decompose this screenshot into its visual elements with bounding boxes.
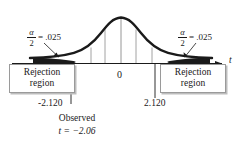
rejection-region-right-line1: Rejection bbox=[161, 67, 225, 78]
left-alpha-numerator: α bbox=[28, 28, 34, 37]
left-alpha-denominator: 2 bbox=[28, 39, 34, 48]
t-axis-label: t bbox=[229, 56, 232, 66]
lower-critical-value-label: -2.120 bbox=[38, 99, 63, 109]
rejection-region-box-right: Rejection region bbox=[160, 64, 226, 93]
right-alpha-fraction: α 2 bbox=[178, 28, 187, 47]
left-alpha-fraction: α 2 bbox=[27, 28, 36, 47]
rejection-region-right-line2: region bbox=[161, 78, 225, 89]
rejection-region-box-left: Rejection region bbox=[9, 64, 75, 93]
observed-caption: Observed bbox=[46, 114, 108, 124]
right-alpha-value: = .025 bbox=[189, 33, 212, 42]
left-alpha-label: α 2 = .025 bbox=[27, 28, 61, 47]
right-alpha-label: α 2 = .025 bbox=[178, 28, 212, 47]
observed-statistic-label: t = −2.06 bbox=[46, 127, 108, 137]
rejection-region-left-line1: Rejection bbox=[10, 67, 74, 78]
upper-critical-value-label: 2.120 bbox=[144, 99, 165, 109]
axis-zero-label: 0 bbox=[117, 70, 122, 80]
right-alpha-numerator: α bbox=[179, 28, 185, 37]
rejection-region-left-line2: region bbox=[10, 78, 74, 89]
left-alpha-value: = .025 bbox=[38, 33, 61, 42]
right-alpha-denominator: 2 bbox=[179, 39, 185, 48]
t-distribution-chart: α 2 = .025 α 2 = .025 Rejection region R… bbox=[0, 0, 243, 143]
